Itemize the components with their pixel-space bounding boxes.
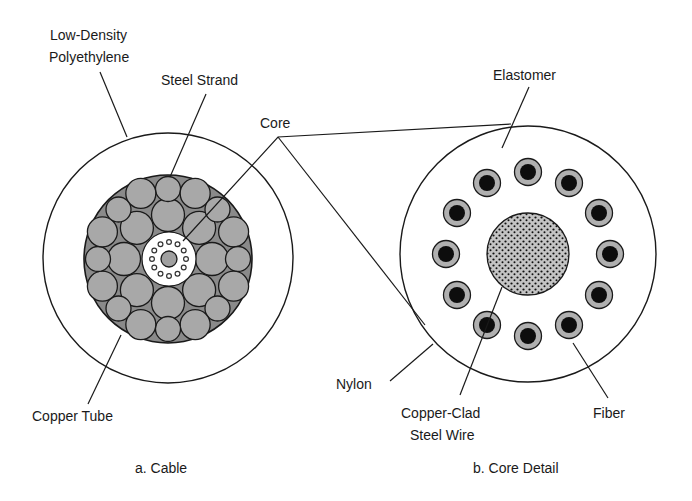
label-ccsw-line2: Steel Wire [410,427,475,443]
label-ccsw-line1: Copper-Clad [401,405,480,421]
cable-cross-section [43,133,293,383]
label-ldpe-line2: Polyethylene [49,49,129,65]
label-core: Core [260,115,291,131]
caption-core-detail: b. Core Detail [473,460,559,476]
label-elastomer: Elastomer [493,67,556,83]
label-ldpe-line1: Low-Density [50,27,127,43]
label-copper-tube: Copper Tube [32,408,113,424]
caption-cable: a. Cable [135,460,187,476]
label-steel-strand: Steel Strand [161,72,238,88]
copper-clad-steel-wire [487,213,569,295]
core-center-wire [161,251,177,267]
label-fiber: Fiber [593,405,625,421]
label-nylon: Nylon [336,376,372,392]
cable-diagram: Low-Density Polyethylene Steel Strand Co… [0,0,692,501]
core-detail [400,126,656,382]
